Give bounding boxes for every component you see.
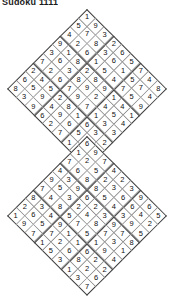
sudoku-cell-value: 3 bbox=[121, 212, 125, 220]
sudoku-cell-value: 8 bbox=[94, 220, 98, 228]
sudoku-cell-value: 8 bbox=[67, 103, 71, 111]
sudoku-cell-value: 3 bbox=[112, 129, 116, 137]
sudoku-cell-value: 1 bbox=[94, 58, 98, 66]
sudoku-cell-value: 1 bbox=[112, 94, 116, 102]
sudoku-cell-value: 3 bbox=[76, 274, 80, 282]
sudoku-cell-value: 4 bbox=[103, 103, 107, 111]
sudoku-cell-value: 4 bbox=[49, 212, 53, 220]
sudoku-cell-value: 7 bbox=[138, 84, 142, 92]
sudoku-cell-value: 2 bbox=[49, 120, 53, 128]
sudoku-cell-value: 7 bbox=[41, 58, 45, 66]
sudoku-cell-value: 1 bbox=[121, 67, 125, 75]
sudoku-cell-value: 8 bbox=[94, 185, 98, 193]
sudoku-cell-value: 1 bbox=[67, 49, 71, 57]
sudoku-cell-value: 4 bbox=[121, 120, 125, 128]
sudoku-cell-value: 8 bbox=[76, 76, 80, 84]
sudoku-cell-value: 6 bbox=[76, 167, 80, 175]
sudoku-cell-value: 9 bbox=[112, 221, 116, 229]
sudoku-cell-value: 4 bbox=[147, 76, 151, 84]
sudoku-cell-value: 7 bbox=[58, 129, 62, 137]
sudoku-cell-value: 6 bbox=[120, 49, 124, 57]
sudoku-cell-value: 9 bbox=[58, 41, 62, 49]
sudoku-cell-value: 3 bbox=[67, 67, 71, 75]
sudoku-cell-value: 8 bbox=[31, 194, 35, 202]
sudoku-cell-value: 9 bbox=[103, 247, 107, 255]
sudoku-cell-value: 2 bbox=[85, 67, 89, 75]
sudoku-cell-value: 7 bbox=[41, 185, 45, 193]
sudoku-cell-value: 1 bbox=[14, 212, 18, 220]
sudoku-cell-value: 9 bbox=[58, 221, 62, 229]
sudoku-cell-value: 1 bbox=[85, 14, 89, 22]
sudoku-cell-value: 5 bbox=[67, 212, 71, 220]
sudoku-cell-value: 2 bbox=[102, 265, 106, 273]
sudoku-cell-value: 7 bbox=[103, 230, 107, 238]
sudoku-cell-value: 1 bbox=[76, 112, 80, 120]
sudoku-cell-value: 1 bbox=[41, 239, 45, 247]
sudoku-cell-value: 4 bbox=[58, 168, 62, 176]
sudoku-cell-value: 8 bbox=[85, 176, 89, 184]
sudoku-cell-value: 2 bbox=[147, 220, 151, 228]
sudoku-cell-value: 4 bbox=[120, 103, 124, 111]
sudoku-cell-value: 7 bbox=[50, 230, 54, 238]
sudoku-grid: 6974239651252366427688543954396239789532… bbox=[7, 136, 167, 296]
sudoku-cell-value: 3 bbox=[103, 49, 107, 57]
sudoku-cell-value: 4 bbox=[138, 211, 142, 219]
sudoku-cell-value: 3 bbox=[50, 49, 54, 57]
sudoku-cell-value: 9 bbox=[93, 149, 97, 157]
sudoku-cell-value: 5 bbox=[103, 194, 107, 202]
sudoku-cell-value: 8 bbox=[14, 85, 18, 93]
sudoku-cell-value: 4 bbox=[67, 31, 71, 39]
sudoku-cell-value: 6 bbox=[147, 203, 151, 211]
sudoku-cell-value: 3 bbox=[23, 93, 27, 101]
sudoku-cell-value: 4 bbox=[147, 93, 151, 101]
sudoku-cell-value: 5 bbox=[103, 67, 107, 75]
sudoku-cell-value: 2 bbox=[93, 203, 97, 211]
sudoku-cell-value: 3 bbox=[112, 238, 116, 246]
sudoku-cell-value: 4 bbox=[112, 203, 116, 211]
sudoku-cell-value: 5 bbox=[112, 111, 116, 119]
sudoku-cell-value: 5 bbox=[49, 247, 53, 255]
sudoku-cell-value: 4 bbox=[85, 211, 89, 219]
sudoku-cell-value: 2 bbox=[112, 41, 116, 49]
sudoku-cell-value: 3 bbox=[67, 194, 71, 202]
sudoku-cell-value: 1 bbox=[67, 138, 71, 146]
sudoku-cell-value: 5 bbox=[138, 229, 142, 237]
sudoku-cell-value: 6 bbox=[23, 76, 27, 84]
sudoku-cell-value: 6 bbox=[85, 49, 89, 57]
sudoku-cell-value: 3 bbox=[129, 185, 133, 193]
sudoku-cell-value: 9 bbox=[50, 176, 54, 184]
sudoku-cell-value: 2 bbox=[85, 265, 89, 273]
sudoku-cell-value: 6 bbox=[58, 76, 62, 84]
sudoku-cell-value: 6 bbox=[85, 121, 89, 129]
sudoku-cell-value: 8 bbox=[76, 58, 80, 66]
sudoku-cell-value: 6 bbox=[85, 141, 89, 149]
sudoku-cell-value: 1 bbox=[76, 149, 80, 157]
sudoku-cell-value: 7 bbox=[67, 158, 71, 166]
sudoku-cell-value: 5 bbox=[85, 229, 89, 237]
sudoku-cell-value: 2 bbox=[23, 203, 27, 211]
sudoku-cell-value: 7 bbox=[102, 158, 106, 166]
sudoku-cell-value: 6 bbox=[112, 58, 116, 66]
sudoku-cell-value: 2 bbox=[76, 203, 80, 211]
sudoku-cell-value: 1 bbox=[94, 239, 98, 247]
sudoku-cell-value: 5 bbox=[129, 58, 133, 66]
sudoku-cell-value: 6 bbox=[58, 58, 62, 66]
sudoku-cell-value: 1 bbox=[94, 112, 98, 120]
sudoku-cell-value: 4 bbox=[112, 76, 116, 84]
sudoku-cell-value: 5 bbox=[49, 85, 53, 93]
sudoku-cell-value: 7 bbox=[120, 230, 124, 238]
sudoku-cell-value: 8 bbox=[58, 203, 62, 211]
sudoku-cell-value: 2 bbox=[76, 40, 80, 48]
sudoku-cell-value: 4 bbox=[49, 194, 53, 202]
sudoku-cell-value: 5 bbox=[40, 220, 44, 228]
sudoku-cell-value: 7 bbox=[85, 31, 89, 39]
sudoku-cell-value: 6 bbox=[85, 248, 89, 256]
sudoku-cell-value: 3 bbox=[103, 120, 107, 128]
sudoku-cell-value: 9 bbox=[93, 22, 97, 30]
sudoku-cell-value: 4 bbox=[112, 256, 116, 264]
sudoku-cell-value: 5 bbox=[156, 212, 160, 220]
sudoku-cell-value: 7 bbox=[76, 220, 80, 228]
sudoku-cell-value: 3 bbox=[58, 256, 62, 264]
sudoku-cell-value: 8 bbox=[129, 239, 133, 247]
